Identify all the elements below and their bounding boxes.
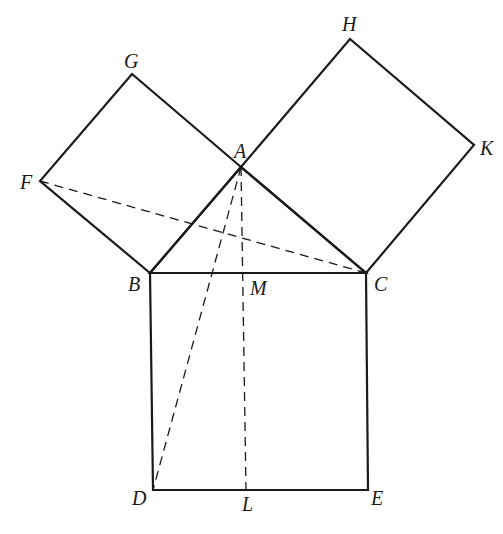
label-c: C bbox=[374, 273, 388, 295]
label-g: G bbox=[124, 50, 139, 72]
square-ahkc bbox=[241, 39, 474, 273]
label-m: M bbox=[249, 277, 268, 299]
square-bced bbox=[150, 273, 368, 490]
label-h: H bbox=[341, 13, 358, 35]
pythagorean-diagram: A B C D E F G H K M L bbox=[0, 0, 503, 534]
label-e: E bbox=[370, 487, 383, 509]
label-a: A bbox=[232, 140, 247, 162]
label-f: F bbox=[19, 171, 33, 193]
label-b: B bbox=[128, 273, 140, 295]
label-l: L bbox=[241, 493, 253, 515]
dashed-line-al bbox=[241, 167, 246, 490]
triangle-abc bbox=[150, 167, 366, 273]
square-abfg bbox=[40, 74, 241, 273]
label-k: K bbox=[479, 137, 495, 159]
dashed-line-ad bbox=[153, 167, 241, 490]
dashed-line-fc bbox=[40, 181, 366, 273]
label-d: D bbox=[131, 487, 147, 509]
